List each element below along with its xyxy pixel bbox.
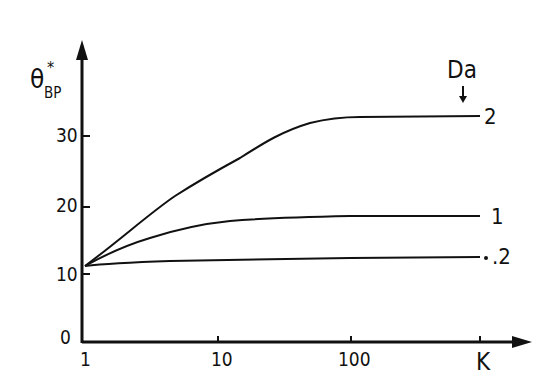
y-axis-title: θ <box>30 66 44 92</box>
down-arrow-icon <box>459 96 467 103</box>
curves <box>85 116 480 266</box>
curve-label-0.2: .2 <box>492 246 511 268</box>
y-tick-label-10: 10 <box>56 265 78 284</box>
y-axis-arrow-icon <box>76 40 88 60</box>
legend-title: Da <box>447 58 477 82</box>
y-axis-title-sub: BP <box>44 86 61 101</box>
y-tick-label-20: 20 <box>56 196 78 215</box>
x-tick-label-1: 1 <box>80 350 91 369</box>
x-axis-arrow-icon <box>512 336 532 348</box>
curve-label-1: 1 <box>491 206 504 228</box>
y-tick-label-0: 0 <box>60 328 71 347</box>
x-axis-title: K <box>476 350 490 374</box>
y-tick-label-30: 30 <box>56 126 78 145</box>
curve-da-2 <box>85 116 480 266</box>
x-tick-label-100: 100 <box>338 350 371 369</box>
x-tick-label-10: 10 <box>211 350 233 369</box>
curve-da-0.2 <box>85 257 480 266</box>
y-axis-title-sup: * <box>47 60 54 76</box>
curve-label-2: 2 <box>484 106 497 128</box>
dot-marker <box>484 256 488 260</box>
